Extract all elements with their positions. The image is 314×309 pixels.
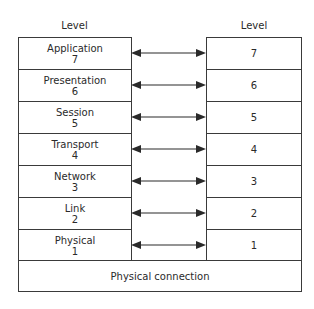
peer-level-4: 4	[207, 134, 301, 166]
double-arrow-icon	[131, 80, 206, 90]
layer-name: Link	[65, 203, 85, 214]
double-arrow-icon	[131, 112, 206, 122]
layer-level: 4	[72, 150, 78, 161]
layer-presentation: Presentation6	[19, 70, 131, 102]
double-arrow-icon	[131, 176, 206, 186]
physical-connection-box: Physical connection	[18, 260, 302, 292]
layer-link: Link2	[19, 198, 131, 230]
layer-name: Transport	[52, 139, 99, 150]
peer-level-7: 7	[207, 38, 301, 70]
peer-level-6: 6	[207, 70, 301, 102]
layer-name: Presentation	[44, 75, 107, 86]
layer-level: 2	[72, 214, 78, 225]
layer-name: Application	[47, 43, 103, 54]
layer-name: Physical	[55, 235, 96, 246]
left-level-header: Level	[18, 20, 131, 31]
layer-level: 1	[72, 246, 78, 257]
peer-level-1: 1	[207, 230, 301, 261]
layer-physical: Physical1	[19, 230, 131, 261]
right-layer-stack: 7 6 5 4 3 2 1	[206, 37, 302, 261]
layer-level: 5	[72, 118, 78, 129]
left-layer-stack: Application7 Presentation6 Session5 Tran…	[18, 37, 132, 261]
layer-session: Session5	[19, 102, 131, 134]
layer-level: 3	[72, 182, 78, 193]
layer-transport: Transport4	[19, 134, 131, 166]
layer-name: Network	[54, 171, 96, 182]
peer-level-5: 5	[207, 102, 301, 134]
double-arrow-icon	[131, 144, 206, 154]
right-level-header: Level	[206, 20, 302, 31]
double-arrow-icon	[131, 48, 206, 58]
layer-application: Application7	[19, 38, 131, 70]
layer-name: Session	[56, 107, 94, 118]
peer-level-3: 3	[207, 166, 301, 198]
layer-level: 6	[72, 86, 78, 97]
layer-network: Network3	[19, 166, 131, 198]
peer-level-2: 2	[207, 198, 301, 230]
double-arrow-icon	[131, 240, 206, 250]
layer-level: 7	[72, 54, 78, 65]
double-arrow-icon	[131, 208, 206, 218]
physical-connection-label: Physical connection	[111, 271, 210, 282]
